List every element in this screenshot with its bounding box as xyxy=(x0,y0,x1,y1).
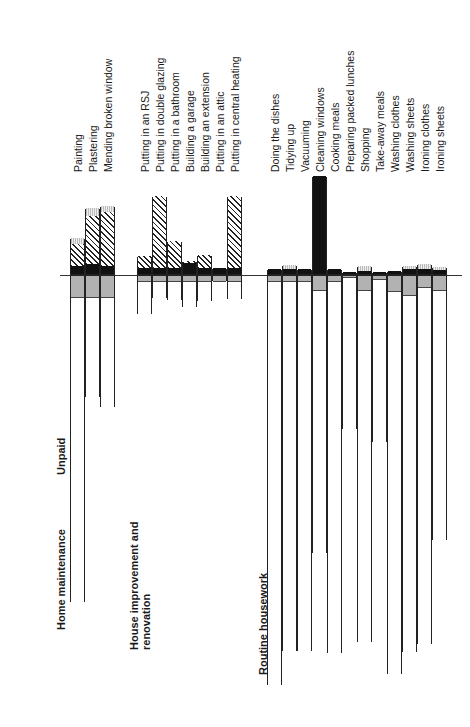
unpaid-segment-gray xyxy=(433,276,446,291)
unpaid-segment-gray xyxy=(313,276,326,291)
paid-segment-black xyxy=(328,269,341,274)
paid-segment-black xyxy=(403,269,416,274)
category-label: Doing the dishes xyxy=(269,94,281,172)
paid-bar xyxy=(137,257,152,275)
paid-segment-black xyxy=(268,269,281,274)
paid-segment-dotted xyxy=(283,265,296,269)
unpaid-segment-white xyxy=(228,282,241,300)
unpaid-segment-white xyxy=(358,291,371,643)
category-label: Putting in an RSJ xyxy=(139,91,151,172)
paid-segment-black xyxy=(138,268,151,274)
category-label: Washing sheets xyxy=(404,98,416,172)
category-label: Building an extension xyxy=(199,72,211,172)
paid-segment-hatched xyxy=(71,244,84,266)
paid-segment-dotted xyxy=(101,206,114,212)
category-label: Washing clothes xyxy=(389,95,401,172)
unpaid-segment-white xyxy=(268,282,281,686)
unpaid-segment-gray xyxy=(403,276,416,296)
category-label: Painting xyxy=(72,134,84,172)
paid-segment-black xyxy=(71,266,84,274)
paid-segment-dotted xyxy=(433,267,446,270)
paid-bar xyxy=(227,197,242,275)
paid-segment-black xyxy=(283,269,296,274)
category-label: Cleaning windows xyxy=(314,87,326,172)
category-label: Vacuuming xyxy=(299,120,311,172)
paid-segment-dotted xyxy=(403,266,416,269)
unpaid-bar xyxy=(282,275,297,651)
paid-segment-hatched xyxy=(183,261,196,263)
paid-segment-black xyxy=(101,266,114,274)
unpaid-segment-white xyxy=(183,282,196,308)
unpaid-segment-white xyxy=(403,296,416,653)
category-label: Tidying up xyxy=(284,124,296,172)
unpaid-segment-gray xyxy=(101,276,114,298)
unpaid-segment-white xyxy=(373,280,386,443)
paid-segment-black xyxy=(388,271,401,274)
paid-segment-black xyxy=(358,271,371,274)
chart-canvas: Unpaid Home maintenancePaintingPlasterin… xyxy=(0,0,470,727)
paid-bar xyxy=(197,256,212,275)
paid-segment-black xyxy=(153,268,166,274)
unpaid-bar xyxy=(417,275,432,644)
paid-bar xyxy=(152,197,167,275)
paid-segment-hatched xyxy=(138,256,151,268)
unpaid-bar xyxy=(387,275,402,674)
category-label: Take-away meals xyxy=(374,91,386,172)
unpaid-segment-white xyxy=(86,298,99,398)
paid-bar xyxy=(167,242,182,275)
category-label: Ironing sheets xyxy=(434,106,446,172)
category-label: Preparing packed lunches xyxy=(344,51,356,172)
unpaid-segment-white xyxy=(388,292,401,675)
unpaid-segment-white xyxy=(313,291,326,554)
paid-bar xyxy=(432,268,447,275)
axis-label-unpaid: Unpaid xyxy=(55,438,67,475)
paid-bar xyxy=(70,239,85,275)
paid-segment-black xyxy=(86,264,99,274)
unpaid-bar xyxy=(182,275,197,307)
unpaid-bar xyxy=(312,275,327,553)
unpaid-segment-white xyxy=(168,282,181,301)
paid-segment-black xyxy=(313,176,326,274)
paid-segment-dotted xyxy=(358,266,371,271)
unpaid-bar xyxy=(372,275,387,442)
unpaid-segment-white xyxy=(71,298,84,603)
unpaid-bar xyxy=(267,275,282,685)
category-label: Putting in central heating xyxy=(229,56,241,172)
category-label: Putting in a bathroom xyxy=(169,72,181,172)
paid-bar xyxy=(312,177,327,275)
unpaid-bar xyxy=(167,275,182,300)
group-label: House improvement and renovation xyxy=(128,510,152,650)
unpaid-segment-gray xyxy=(213,276,226,282)
group-label: Home maintenance xyxy=(55,529,67,630)
unpaid-segment-gray xyxy=(86,276,99,298)
paid-segment-hatched xyxy=(153,196,166,268)
unpaid-segment-white xyxy=(138,282,151,315)
unpaid-bar xyxy=(227,275,242,299)
unpaid-segment-gray xyxy=(418,276,431,288)
unpaid-segment-white xyxy=(418,288,431,645)
paid-segment-black xyxy=(228,268,241,274)
unpaid-bar xyxy=(70,275,85,602)
paid-segment-black xyxy=(433,270,446,274)
category-label: Building a garage xyxy=(184,90,196,172)
paid-bar xyxy=(417,265,432,275)
unpaid-bar xyxy=(402,275,417,652)
paid-segment-black xyxy=(418,269,431,274)
category-label: Mending broken window xyxy=(102,59,114,172)
paid-segment-dotted xyxy=(71,238,84,244)
category-label: Shopping xyxy=(359,128,371,172)
paid-segment-dotted xyxy=(418,264,431,269)
unpaid-bar xyxy=(100,275,115,407)
unpaid-bar xyxy=(432,275,447,540)
paid-bar xyxy=(182,262,197,275)
paid-segment-hatched xyxy=(101,212,114,266)
category-label: Putting in an attic xyxy=(214,91,226,172)
paid-bar xyxy=(282,266,297,275)
category-label: Cooking meals xyxy=(329,103,341,172)
unpaid-segment-white xyxy=(153,282,166,299)
unpaid-segment-white xyxy=(328,282,341,654)
unpaid-segment-gray xyxy=(358,276,371,291)
unpaid-bar xyxy=(152,275,167,298)
paid-segment-black xyxy=(213,268,226,274)
unpaid-bar xyxy=(212,275,227,281)
